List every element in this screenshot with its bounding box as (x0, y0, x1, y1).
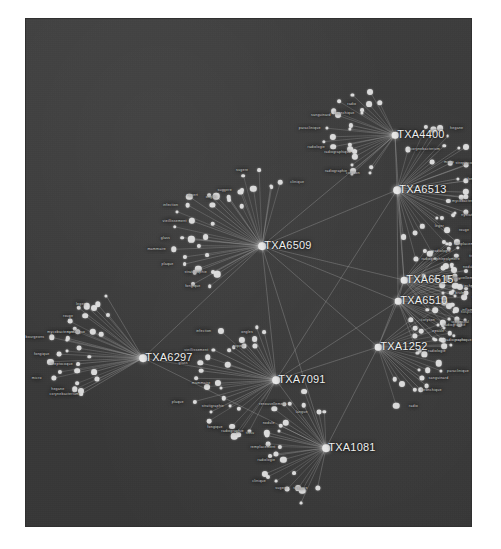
graph-edge (352, 95, 395, 135)
graph-edge (378, 328, 444, 347)
graph-edge (262, 182, 280, 246)
graph-edge (75, 358, 143, 389)
graph-edge (397, 190, 453, 215)
graph-edge (395, 135, 404, 280)
graph-edge (397, 190, 447, 230)
graph-edge (287, 448, 326, 489)
graph-edge (276, 301, 398, 380)
graph-edge (378, 347, 415, 390)
graph-edge (397, 128, 440, 190)
graph-edge (195, 380, 276, 402)
graph-edge (398, 293, 451, 301)
graph-edge (175, 227, 262, 246)
graph-edge (370, 135, 395, 173)
graph-edge (94, 308, 143, 358)
graph-edge (262, 246, 326, 448)
graph-edge (213, 246, 262, 272)
graph-edge (262, 246, 276, 380)
graph-edge (283, 448, 326, 460)
graph-edge (262, 187, 272, 246)
graph-edge (276, 347, 378, 380)
graph-edge (87, 306, 143, 358)
graph-edge (177, 212, 262, 246)
graph-edge (339, 101, 395, 135)
graph-edge (404, 248, 458, 280)
graph-edge (378, 301, 398, 347)
graph-edge (209, 380, 276, 421)
graph-edge (209, 195, 262, 246)
graph-edge (216, 196, 262, 246)
graph-edge (276, 190, 397, 380)
graph-edge (302, 448, 326, 491)
graph-edge (232, 380, 276, 427)
graph-edge (262, 135, 395, 246)
graph-edge (397, 190, 398, 301)
graph-edge (143, 246, 262, 358)
graph-edge (378, 280, 404, 347)
graph-edge (262, 246, 378, 347)
graph-canvas[interactable]: cotysonradiographieradiographiqueradiolo… (25, 18, 472, 527)
graph-edge (397, 190, 457, 242)
graph-edges-layer (25, 18, 472, 527)
graph-edge (217, 246, 262, 274)
graph-edge (195, 246, 262, 272)
graph-edge (397, 127, 426, 190)
graph-edge (397, 181, 466, 190)
graph-edge (259, 170, 262, 246)
graph-edge (397, 146, 444, 190)
graph-edge (234, 380, 276, 436)
graph-edge (397, 190, 422, 226)
graph-edge (326, 347, 378, 448)
graph-edge (370, 92, 395, 135)
graph-edge (398, 286, 455, 301)
graph-edge (143, 358, 276, 380)
graph-edge (378, 320, 411, 347)
graph-edge (101, 334, 143, 358)
graph-edge (324, 412, 326, 448)
graph-edge (284, 404, 326, 448)
graph-edge (397, 165, 466, 190)
graph-edge (404, 244, 450, 280)
graph-edge (200, 363, 276, 380)
graph-edge (198, 246, 262, 269)
graph-edge (221, 331, 276, 380)
graph-edge (398, 301, 443, 326)
graph-edge (404, 280, 457, 319)
graph-edge (378, 347, 422, 378)
graph-edge (143, 358, 326, 448)
screenshot-viewport: cotysonradiographieradiographiqueradiolo… (0, 0, 501, 549)
graph-edge (378, 347, 441, 371)
graph-edge (77, 358, 143, 371)
graph-edge (262, 190, 397, 246)
graph-edge (398, 301, 460, 324)
graph-edge (378, 328, 415, 347)
graph-edge (397, 148, 459, 190)
graph-edge (276, 380, 326, 448)
